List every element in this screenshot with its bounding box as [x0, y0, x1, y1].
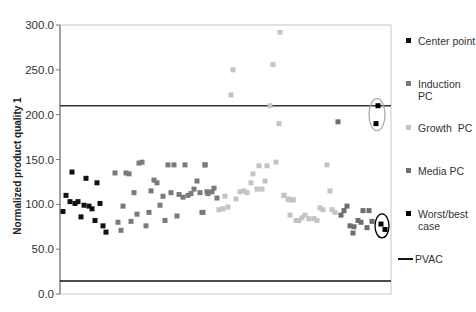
data-point [198, 190, 203, 195]
data-point [200, 210, 205, 215]
data-point [234, 196, 239, 201]
data-point [229, 92, 234, 97]
data-point [231, 67, 236, 72]
data-point [255, 187, 260, 192]
data-point [278, 30, 283, 35]
data-point [95, 180, 100, 185]
plot-frame [60, 25, 391, 294]
data-point [163, 218, 168, 223]
data-point [342, 208, 347, 213]
y-tick-label: 200.0 [25, 109, 54, 121]
y-tick-label: 50.0 [32, 243, 54, 255]
data-point [288, 213, 293, 218]
y-tick-label: 250.0 [25, 64, 54, 76]
legend-label: Induction PC [418, 78, 476, 102]
data-point [104, 230, 109, 235]
data-point [79, 214, 84, 219]
legend-label: Growth PC [418, 122, 476, 134]
data-point [98, 201, 103, 206]
data-point [64, 193, 69, 198]
data-point [144, 223, 149, 228]
data-point [374, 121, 379, 126]
data-point [271, 62, 276, 67]
data-point [166, 162, 171, 167]
data-point [70, 170, 75, 175]
data-point [245, 190, 250, 195]
data-point [365, 225, 370, 230]
data-point [345, 204, 350, 209]
data-point [221, 206, 226, 211]
data-point [101, 223, 106, 228]
data-point [161, 194, 166, 199]
data-point [155, 180, 160, 185]
data-point [352, 224, 357, 229]
data-point [121, 204, 126, 209]
data-point [333, 210, 338, 215]
data-point [93, 218, 98, 223]
data-point [158, 203, 163, 208]
square-marker-icon [406, 38, 411, 43]
square-marker-icon [406, 81, 411, 86]
data-point [257, 163, 262, 168]
legend-item-growth-pc: Growth PC [400, 122, 476, 134]
legend-label: Media PC [418, 165, 476, 177]
legend-item-media-pc: Media PC [400, 165, 476, 177]
data-point [169, 190, 174, 195]
y-tick-label: 0.0 [38, 288, 54, 300]
y-axis-ticks: 0.050.0100.0150.0200.0250.0300.0 [25, 19, 60, 300]
data-point [172, 162, 177, 167]
data-point [268, 103, 273, 108]
data-point [223, 194, 228, 199]
data-point [274, 160, 279, 165]
data-points [61, 30, 388, 236]
data-point [367, 208, 372, 213]
square-marker-icon [406, 211, 411, 216]
data-point [212, 186, 217, 191]
data-point [351, 231, 356, 236]
data-point [325, 162, 330, 167]
data-point [215, 196, 220, 201]
data-point [370, 219, 375, 224]
data-point [84, 176, 89, 181]
data-point [113, 170, 118, 175]
data-point [336, 119, 341, 124]
data-point [192, 187, 197, 192]
data-point [315, 218, 320, 223]
y-tick-label: 150.0 [25, 154, 54, 166]
data-point [277, 121, 282, 126]
data-point [376, 103, 381, 108]
data-point [181, 195, 186, 200]
legend: Center point Induction PC Growth PC Medi… [400, 0, 476, 312]
data-point [379, 222, 384, 227]
plot-area-border [60, 25, 391, 294]
square-marker-icon [406, 125, 411, 130]
data-point [119, 228, 124, 233]
data-point [339, 213, 344, 218]
legend-item-induction-pc: Induction PC [400, 78, 476, 102]
data-point [76, 199, 81, 204]
data-point [307, 216, 312, 221]
data-point [149, 188, 154, 193]
y-tick-label: 300.0 [25, 19, 54, 31]
y-axis-label: Normalized product quality 1 [12, 97, 23, 235]
data-point [265, 163, 270, 168]
square-marker-icon [406, 168, 411, 173]
annotation-ellipses [369, 99, 389, 238]
data-point [175, 213, 180, 218]
data-point [68, 199, 73, 204]
data-point [359, 220, 364, 225]
legend-label: Center point [418, 35, 476, 47]
data-point [195, 179, 200, 184]
data-point [328, 188, 333, 193]
data-point [90, 206, 95, 211]
data-point [61, 209, 66, 214]
y-tick-label: 100.0 [25, 198, 54, 210]
data-point [189, 191, 194, 196]
data-point [147, 210, 152, 215]
data-point [183, 162, 188, 167]
pvac-lines [60, 106, 391, 281]
data-point [226, 205, 231, 210]
legend-item-pvac: PVAC [398, 253, 473, 265]
data-point [383, 227, 388, 232]
data-point [116, 220, 121, 225]
